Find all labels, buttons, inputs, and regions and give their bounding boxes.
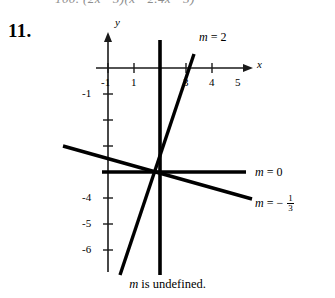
slope-value: 0 [276,165,282,179]
x-tick-label-3: 3 [183,76,189,88]
caption-variable: m [129,277,138,291]
slope-label-m-2: m = 2 [199,30,226,45]
equals-sign: = [211,30,218,44]
figure-caption: m is undefined. [0,277,335,292]
y-tick-label-neg5: -5 [82,217,91,229]
fraction-denominator: 3 [287,203,294,213]
slope-label-m-neg-one-third: m = − 1 3 [255,194,294,214]
equals-sign: = [267,196,274,210]
x-axis-label: x [257,58,262,70]
fraction-numerator: 1 [287,194,294,203]
worked-example-figure-page: 100. (2x - 5)(x - 2.4x - 5) 11. [0,0,335,298]
x-axis [96,64,253,72]
y-tick-label-neg1: -1 [82,87,91,99]
y-axis-label: y [115,16,120,28]
slope-variable: m [255,196,264,210]
slope-label-m-0: m = 0 [255,165,282,180]
x-tick-label-1: 1 [131,76,137,88]
y-tick-label-neg4: -4 [82,191,91,203]
coordinate-graph [0,0,335,298]
caption-text: is undefined. [138,277,206,291]
fraction-one-third: 1 3 [287,194,294,214]
x-tick-label-neg1: -1 [101,76,110,88]
slope-variable: m [255,165,264,179]
x-tick-label-4: 4 [209,76,215,88]
equals-sign: = [267,165,274,179]
minus-sign: − [276,196,283,210]
x-tick-label-5: 5 [235,76,241,88]
slope-variable: m [199,30,208,44]
y-tick-label-neg6: -6 [82,243,91,255]
slope-value: 2 [220,30,226,44]
